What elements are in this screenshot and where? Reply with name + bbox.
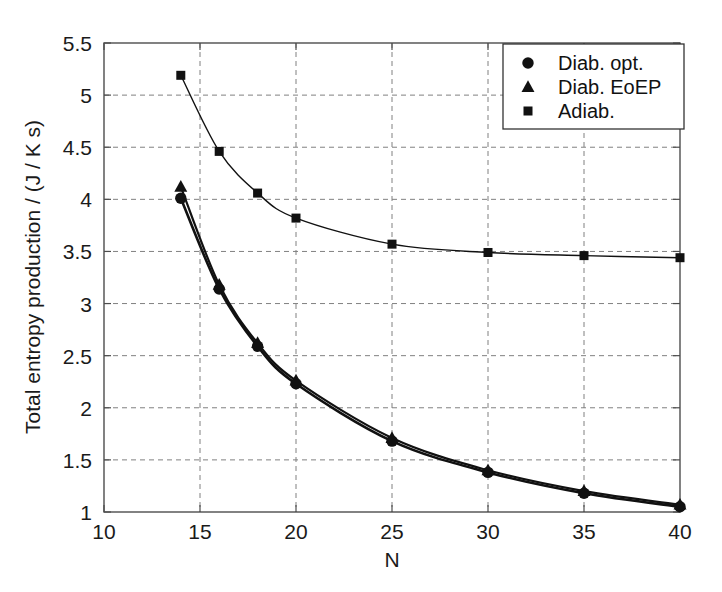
x-tick-label: 30 <box>476 520 499 543</box>
marker-square <box>676 253 685 262</box>
marker-square <box>215 147 224 156</box>
y-tick-label: 4 <box>80 188 92 211</box>
chart-figure: 10152025303540 11.522.533.544.555.5 Diab… <box>0 0 722 592</box>
legend: Diab. opt.Diab. EoEPAdiab. <box>503 44 684 129</box>
y-tick-label: 2.5 <box>63 345 92 368</box>
legend-item-label: Adiab. <box>558 100 615 122</box>
x-tick-label: 40 <box>668 520 691 543</box>
x-tick-label: 15 <box>188 520 211 543</box>
y-tick-label: 3.5 <box>63 240 92 263</box>
y-axis-title: Total entropy production / (J / K s) <box>21 120 44 434</box>
marker-square <box>524 107 533 116</box>
x-tick-label: 25 <box>380 520 403 543</box>
y-tick-label: 3 <box>80 293 92 316</box>
marker-square <box>388 240 397 249</box>
y-tick-label: 1.5 <box>63 449 92 472</box>
marker-circle <box>522 57 533 68</box>
y-tick-label: 4.5 <box>63 136 92 159</box>
marker-square <box>484 248 493 257</box>
legend-item-label: Diab. opt. <box>558 52 644 74</box>
y-tick-label: 2 <box>80 397 92 420</box>
marker-square <box>580 251 589 260</box>
marker-square <box>253 189 262 198</box>
y-tick-label: 5.5 <box>63 32 92 55</box>
y-tick-label: 1 <box>80 501 92 524</box>
x-tick-label: 10 <box>92 520 115 543</box>
marker-square <box>176 71 185 80</box>
legend-item-label: Diab. EoEP <box>558 76 661 98</box>
marker-square <box>292 214 301 223</box>
y-tick-label: 5 <box>80 84 92 107</box>
x-tick-label: 20 <box>284 520 307 543</box>
x-tick-label: 35 <box>572 520 595 543</box>
x-axis-title: N <box>384 548 399 571</box>
entropy-production-line-chart: 10152025303540 11.522.533.544.555.5 Diab… <box>0 0 722 592</box>
